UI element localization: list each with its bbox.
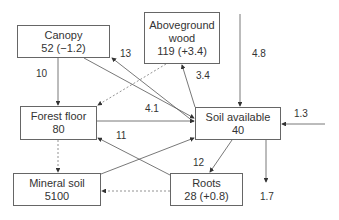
node-roots-name: Roots: [192, 177, 221, 190]
flow-label-input-top: 4.8: [252, 48, 266, 59]
flow-label-forest-floor-soil: 4.1: [145, 103, 159, 114]
flow-label-soil-wood: 3.4: [196, 70, 210, 81]
node-roots-value: 28 (+0.8): [184, 190, 228, 203]
node-forest-floor-value: 80: [52, 123, 64, 136]
flow-label-roots-forest-floor: 11: [116, 130, 126, 141]
node-wood-name-2: wood: [169, 32, 195, 45]
node-canopy: Canopy 52 (−1.2): [17, 25, 110, 58]
flow-label-leaching: 1.7: [260, 191, 274, 202]
node-forest-floor: Forest floor 80: [20, 106, 97, 140]
flow-label-input-right: 1.3: [294, 108, 308, 119]
flow-label-soil-roots: 12: [193, 157, 204, 168]
node-roots: Roots 28 (+0.8): [170, 173, 243, 206]
node-canopy-value: 52 (−1.2): [41, 42, 85, 55]
node-mineral-value: 5100: [45, 190, 69, 203]
node-mineral-name: Mineral soil: [29, 177, 85, 190]
node-aboveground-wood: Aboveground wood 119 (+3.4): [144, 12, 220, 64]
arrow-soil-to-wood: [182, 65, 195, 107]
arrow-soil-to-roots: [210, 140, 232, 172]
arrow-roots-to-forest-floor: [98, 138, 170, 175]
node-soil-available: Soil available 40: [195, 107, 281, 140]
node-forest-floor-name: Forest floor: [31, 110, 87, 123]
node-mineral-soil: Mineral soil 5100: [13, 173, 101, 206]
node-wood-name-1: Aboveground: [149, 19, 214, 32]
flow-label-soil-canopy: 13: [120, 48, 131, 59]
node-canopy-name: Canopy: [45, 29, 83, 42]
node-soil-name: Soil available: [206, 111, 271, 124]
node-wood-value: 119 (+3.4): [157, 45, 207, 58]
node-soil-value: 40: [232, 124, 244, 137]
flow-label-canopy-forest-floor: 10: [36, 68, 47, 79]
arrow-mineral-to-soil: [101, 138, 194, 174]
